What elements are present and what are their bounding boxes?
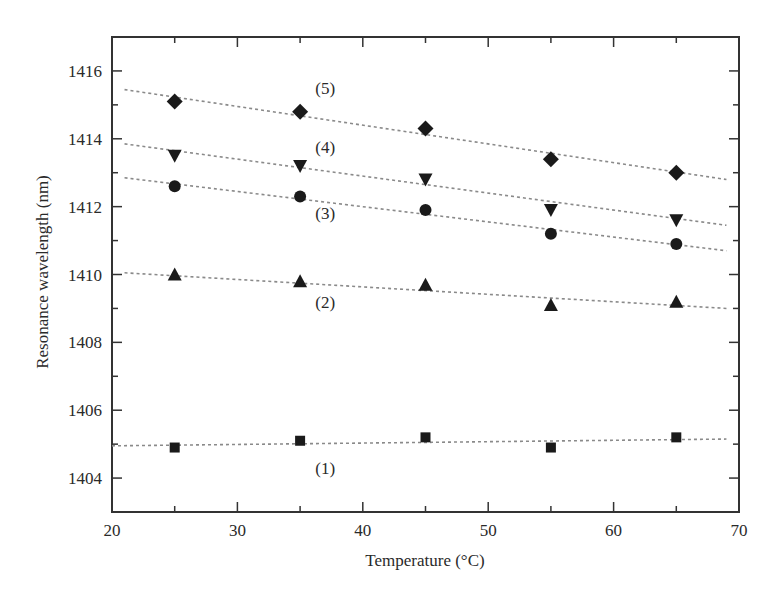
y-axis-title: Resonance wavelength (nm) (33, 175, 52, 369)
x-axis-title: Temperature (°C) (365, 551, 484, 570)
series-label: (2) (315, 293, 335, 312)
series-label: (5) (315, 79, 335, 98)
x-tick-label: 40 (354, 521, 371, 540)
triangle-down-marker (293, 160, 307, 173)
y-tick-label: 1412 (68, 198, 102, 217)
y-tick-label: 1414 (68, 130, 103, 149)
square-marker (295, 436, 305, 446)
fit-lines (112, 90, 726, 446)
x-tick-label: 60 (605, 521, 622, 540)
square-marker (170, 443, 180, 453)
triangle-up-marker (419, 278, 433, 291)
x-tick-label: 70 (731, 521, 748, 540)
y-tick-label: 1410 (68, 266, 102, 285)
y-tick-label: 1406 (68, 401, 102, 420)
square-marker (421, 432, 431, 442)
diamond-marker (292, 104, 308, 120)
x-tick-label: 30 (229, 521, 246, 540)
triangle-down-marker (544, 204, 558, 217)
circle-marker (169, 180, 181, 192)
fit-line (112, 439, 726, 446)
square-marker (671, 432, 681, 442)
triangle-up-marker (168, 268, 182, 281)
series-labels: (1)(2)(3)(4)(5) (315, 79, 335, 478)
square-marker (546, 443, 556, 453)
diamond-marker (543, 151, 559, 167)
x-tick-label: 50 (480, 521, 497, 540)
diamond-marker (418, 121, 434, 137)
triangle-up-marker (669, 295, 683, 308)
triangle-up-marker (293, 274, 307, 287)
chart: 203040506070 140414061408141014121414141… (0, 0, 777, 590)
y-tick-label: 1408 (68, 333, 102, 352)
x-tick-label: 20 (104, 521, 121, 540)
series-label: (4) (315, 138, 335, 157)
circle-marker (670, 238, 682, 250)
y-tick-label: 1404 (68, 469, 103, 488)
circle-marker (294, 190, 306, 202)
data-markers (167, 93, 685, 452)
y-tick-label: 1416 (68, 62, 102, 81)
triangle-down-marker (168, 150, 182, 163)
triangle-down-marker (669, 214, 683, 227)
diamond-marker (668, 165, 684, 181)
series-label: (3) (315, 204, 335, 223)
series-label: (1) (315, 459, 335, 478)
circle-marker (545, 228, 557, 240)
triangle-up-marker (544, 298, 558, 311)
circle-marker (420, 204, 432, 216)
